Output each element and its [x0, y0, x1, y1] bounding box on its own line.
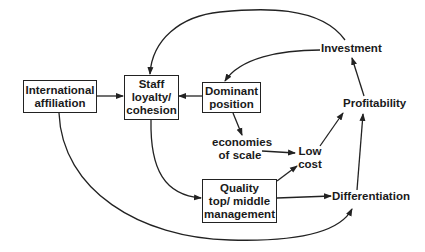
arrow-lowcost-to-profitability	[320, 113, 343, 146]
node-label-line: Investment	[321, 42, 381, 55]
arrow-staff-to-quality	[151, 120, 201, 198]
node-dominant-position: Dominant position	[202, 82, 261, 113]
node-label-line: Staff	[126, 78, 176, 91]
node-economies-of-scale: economies of scale	[212, 136, 268, 162]
node-label-line: of scale	[212, 149, 268, 162]
node-label-line: Quality	[204, 182, 275, 195]
arrow-investment-to-staff	[150, 10, 345, 74]
node-quality-management: Quality top/ middle management	[202, 179, 277, 223]
node-label-line: Dominant	[205, 85, 258, 98]
node-international-affiliation: International affiliation	[23, 80, 97, 113]
node-label-line: loyalty/	[126, 91, 176, 104]
node-investment: Investment	[321, 42, 381, 55]
node-label-line: top/ middle	[204, 195, 275, 208]
arrow-profitability-to-investment	[352, 58, 364, 96]
node-label-line: Low	[296, 145, 324, 158]
arrow-differentiation-to-profitability	[357, 114, 363, 190]
arrow-dominant-to-economies	[233, 113, 242, 135]
node-label-line: Differentiation	[332, 190, 406, 203]
node-label-line: International	[25, 84, 94, 97]
node-label-line: Profitability	[343, 97, 405, 110]
node-differentiation: Differentiation	[332, 190, 406, 203]
node-label-line: management	[204, 208, 275, 221]
arrow-investment-to-dominant	[225, 50, 320, 81]
arrow-quality-to-lowcost	[277, 166, 297, 181]
node-low-cost: Low cost	[296, 145, 324, 171]
node-profitability: Profitability	[343, 97, 405, 110]
node-label-line: position	[205, 98, 258, 111]
node-staff-loyalty-cohesion: Staff loyalty/ cohesion	[124, 75, 179, 120]
arrow-quality-to-differentiation	[277, 196, 331, 198]
node-label-line: cohesion	[126, 104, 176, 117]
node-label-line: economies	[212, 136, 268, 149]
node-label-line: cost	[296, 158, 324, 171]
node-label-line: affiliation	[25, 97, 94, 110]
